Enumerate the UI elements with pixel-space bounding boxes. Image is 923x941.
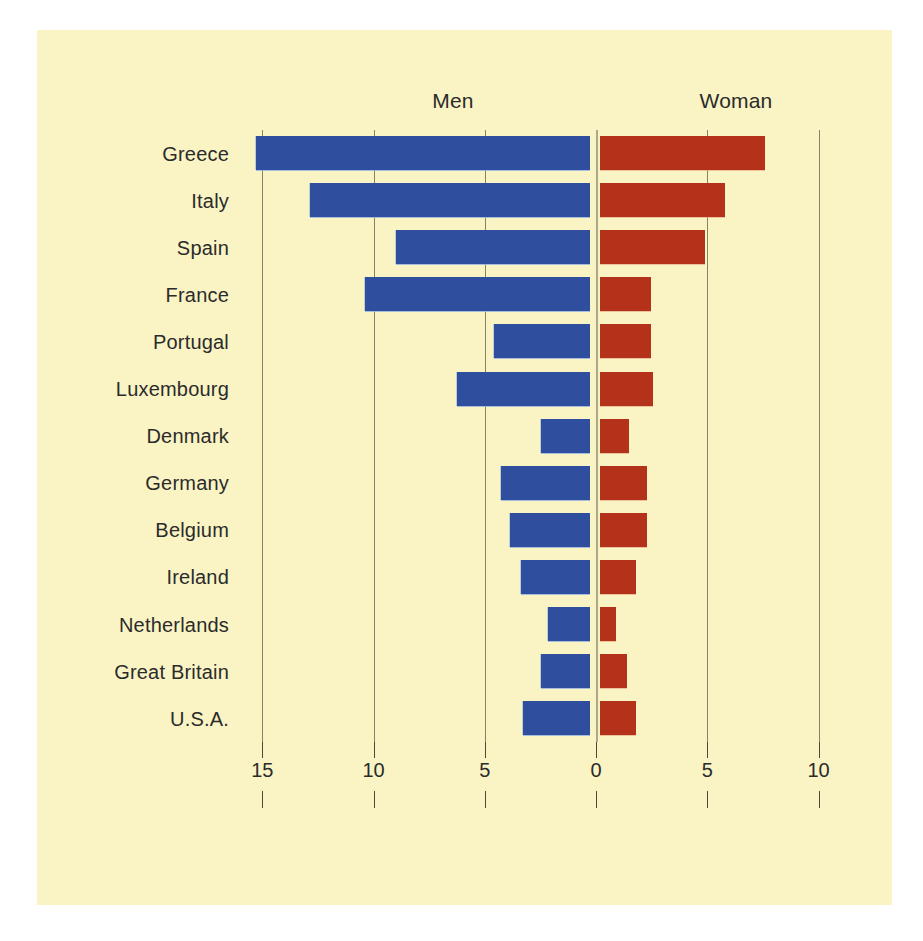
plot-area: GreeceItalySpainFrancePortugalLuxembourg… <box>0 130 923 742</box>
bar-woman-france <box>600 277 651 311</box>
category-label-spain: Spain <box>177 236 229 259</box>
tick-label-5-right: 5 <box>684 759 730 782</box>
bar-woman-netherlands <box>600 607 616 641</box>
bar-woman-italy <box>600 183 725 217</box>
chart-row: Italy <box>0 177 923 224</box>
category-label-netherlands: Netherlands <box>119 613 229 636</box>
chart-row: France <box>0 271 923 318</box>
chart-row: Spain <box>0 224 923 271</box>
series-header-woman: Woman <box>686 89 786 113</box>
bar-woman-portugal <box>600 324 651 358</box>
bar-men-denmark <box>541 419 590 453</box>
bar-men-u-s-a <box>523 701 590 735</box>
category-label-belgium: Belgium <box>155 519 229 542</box>
tick-mark-bottom-15-left <box>262 791 263 808</box>
category-label-ireland: Ireland <box>166 566 229 589</box>
bar-woman-germany <box>600 466 647 500</box>
tick-mark-top-10-right <box>819 742 820 758</box>
bar-men-portugal <box>494 324 590 358</box>
x-axis: 151050510 <box>0 742 923 812</box>
tick-label-5-left: 5 <box>462 759 508 782</box>
bar-men-belgium <box>510 513 590 547</box>
bar-woman-luxembourg <box>600 372 653 406</box>
category-label-portugal: Portugal <box>153 330 229 353</box>
chart-row: Denmark <box>0 413 923 460</box>
bar-woman-ireland <box>600 560 636 594</box>
tick-mark-bottom-5-right <box>707 791 708 808</box>
bar-men-great-britain <box>541 654 590 688</box>
chart-figure: Men Woman GreeceItalySpainFrancePortugal… <box>0 0 923 941</box>
bar-men-italy <box>310 183 590 217</box>
chart-row: Greece <box>0 130 923 177</box>
bar-woman-spain <box>600 230 705 264</box>
tick-mark-top-5-right <box>707 742 708 758</box>
tick-label-10-right: 10 <box>796 759 842 782</box>
chart-row: Great Britain <box>0 648 923 695</box>
chart-row: Belgium <box>0 507 923 554</box>
tick-mark-top-15-left <box>262 742 263 758</box>
tick-mark-top-10-left <box>374 742 375 758</box>
tick-mark-bottom-10-right <box>819 791 820 808</box>
series-header-men: Men <box>408 89 498 113</box>
chart-row: Netherlands <box>0 601 923 648</box>
bar-men-france <box>365 277 590 311</box>
category-label-denmark: Denmark <box>146 425 229 448</box>
tick-label-10-left: 10 <box>351 759 397 782</box>
category-label-luxembourg: Luxembourg <box>116 378 229 401</box>
tick-mark-top-0-zero <box>596 742 597 758</box>
bar-men-ireland <box>521 560 590 594</box>
bar-woman-greece <box>600 136 765 170</box>
category-label-greece: Greece <box>162 142 229 165</box>
category-label-germany: Germany <box>145 472 229 495</box>
tick-label-0-zero: 0 <box>573 759 619 782</box>
bar-men-netherlands <box>548 607 590 641</box>
bar-men-spain <box>396 230 590 264</box>
category-label-france: France <box>166 283 229 306</box>
category-label-italy: Italy <box>191 189 229 212</box>
chart-row: Luxembourg <box>0 366 923 413</box>
bar-woman-denmark <box>600 419 629 453</box>
bar-woman-belgium <box>600 513 647 547</box>
bar-men-greece <box>256 136 590 170</box>
bar-men-luxembourg <box>457 372 591 406</box>
chart-row: U.S.A. <box>0 695 923 742</box>
tick-mark-bottom-10-left <box>374 791 375 808</box>
chart-row: Germany <box>0 460 923 507</box>
chart-row: Ireland <box>0 554 923 601</box>
tick-mark-bottom-5-left <box>485 791 486 808</box>
tick-mark-top-5-left <box>485 742 486 758</box>
category-label-great-britain: Great Britain <box>114 660 229 683</box>
tick-mark-bottom-0-zero <box>596 791 597 808</box>
bar-men-germany <box>501 466 590 500</box>
chart-row: Portugal <box>0 318 923 365</box>
bar-woman-u-s-a <box>600 701 636 735</box>
bar-woman-great-britain <box>600 654 627 688</box>
category-label-u-s-a: U.S.A. <box>170 707 229 730</box>
tick-label-15-left: 15 <box>239 759 285 782</box>
